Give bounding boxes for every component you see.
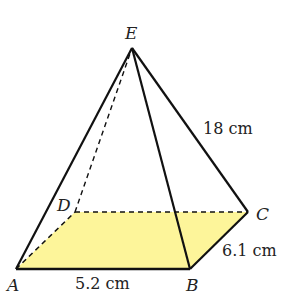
pyramid-diagram: E A B C D 18 cm 6.1 cm 5.2 cm xyxy=(0,0,292,301)
edge-DE-hidden xyxy=(75,48,132,212)
measurement-BC: 6.1 cm xyxy=(222,241,277,260)
vertex-label-D: D xyxy=(56,195,71,215)
measurement-EC: 18 cm xyxy=(203,119,253,138)
vertex-label-E: E xyxy=(124,23,138,43)
base-face xyxy=(16,212,248,269)
vertex-label-A: A xyxy=(5,275,19,295)
measurement-AB: 5.2 cm xyxy=(75,274,130,293)
vertex-label-C: C xyxy=(256,204,269,224)
pyramid-svg: E A B C D 18 cm 6.1 cm 5.2 cm xyxy=(0,0,292,301)
vertex-label-B: B xyxy=(185,275,199,295)
